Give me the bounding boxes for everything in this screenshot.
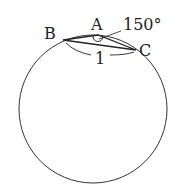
geometry-diagram: B A C 150° 1	[0, 0, 182, 192]
side-length-label: 1	[95, 49, 105, 68]
label-c: C	[139, 41, 151, 60]
label-b: B	[44, 24, 56, 43]
side-bracket-right	[110, 52, 134, 55]
side-bracket-left	[66, 43, 91, 55]
label-a: A	[90, 15, 103, 34]
angle-label: 150°	[123, 15, 162, 34]
